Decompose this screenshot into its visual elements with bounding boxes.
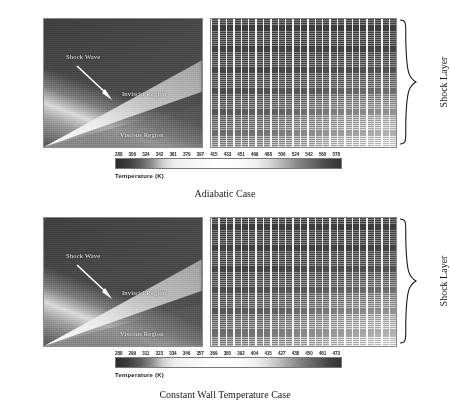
colorbar-tick: 369	[210, 351, 217, 356]
colorbar-tick: 397	[197, 152, 204, 157]
colorbar-tick: 451	[237, 152, 244, 157]
grid-vertical-lines	[211, 218, 396, 346]
panel-caption-adiabatic: Adiabatic Case	[0, 188, 450, 199]
colorbar-tick: 488	[265, 152, 272, 157]
colorbar-tick: 461	[319, 351, 326, 356]
colorbar-title: Temperature (K)	[115, 173, 340, 179]
colorbar-tick: 415	[264, 351, 271, 356]
inviscid-region-label: Inviscid Region	[122, 90, 166, 97]
colorbar-tick: 324	[142, 152, 149, 157]
colorbar-tick: 357	[196, 351, 203, 356]
colorbar-tick: 288	[115, 351, 122, 356]
colorbar-tick: 578	[333, 152, 340, 157]
colorbar-tick: 438	[292, 351, 299, 356]
shock-wave-label: Shock Wave	[66, 252, 100, 259]
temperature-colorbar-group: 2882993113233343463573693803924044154274…	[115, 351, 340, 378]
colorbar-tick: 415	[210, 152, 217, 157]
shock-wave-label: Shock Wave	[66, 53, 100, 60]
temperature-colorbar-group: 2883063243423613793974154334514694885065…	[115, 152, 340, 179]
inviscid-region-label: Inviscid Region	[122, 289, 166, 296]
shock-layer-brace-group: Shock Layer	[398, 217, 450, 345]
colorbar-tick: 323	[156, 351, 163, 356]
colorbar-tick: 288	[115, 152, 122, 157]
contour-noise-texture	[44, 218, 202, 346]
colorbar-tick: 379	[183, 152, 190, 157]
figure-panel-adiabatic: Shock Wave Inviscid Region Viscous Regio…	[0, 0, 450, 204]
colorbar-tick: 380	[224, 351, 231, 356]
colorbar-gradient	[115, 158, 342, 169]
temperature-contour-plot: Shock Wave Inviscid Region Viscous Regio…	[43, 18, 203, 148]
colorbar-tick: 311	[142, 351, 149, 356]
curly-brace-icon	[398, 217, 420, 345]
colorbar-tick-labels: 2882993113233343463573693803924044154274…	[115, 351, 340, 356]
colorbar-tick: 433	[224, 152, 231, 157]
colorbar-gradient	[115, 357, 342, 368]
grid-vertical-lines	[211, 19, 396, 147]
contour-noise-texture	[44, 19, 202, 147]
colorbar-tick: 299	[129, 351, 136, 356]
computational-grid-plot	[210, 217, 397, 347]
colorbar-tick: 473	[333, 351, 340, 356]
colorbar-tick: 560	[319, 152, 326, 157]
colorbar-tick: 392	[237, 351, 244, 356]
colorbar-tick-labels: 2883063243423613793974154334514694885065…	[115, 152, 340, 157]
temperature-contour-plot: Shock Wave Inviscid Region Viscous Regio…	[43, 217, 203, 347]
colorbar-tick: 361	[169, 152, 176, 157]
colorbar-tick: 306	[129, 152, 136, 157]
figure-panel-constant-wall-temperature: Shock Wave Inviscid Region Viscous Regio…	[0, 199, 450, 403]
viscous-region-label: Viscous Region	[120, 131, 164, 138]
contour-field	[44, 218, 202, 346]
curly-brace-icon	[398, 18, 420, 146]
colorbar-tick: 404	[251, 351, 258, 356]
computational-grid-plot	[210, 18, 397, 148]
colorbar-tick: 334	[169, 351, 176, 356]
colorbar-tick: 524	[292, 152, 299, 157]
colorbar-tick: 427	[278, 351, 285, 356]
colorbar-tick: 542	[305, 152, 312, 157]
panel-caption-constant-wall-temperature: Constant Wall Temperature Case	[0, 389, 450, 400]
shock-layer-brace-group: Shock Layer	[398, 18, 450, 146]
viscous-region-label: Viscous Region	[120, 330, 164, 337]
shock-layer-label: Shock Layer	[438, 256, 449, 307]
colorbar-title: Temperature (K)	[115, 372, 340, 378]
colorbar-tick: 342	[156, 152, 163, 157]
colorbar-tick: 469	[251, 152, 258, 157]
colorbar-tick: 346	[183, 351, 190, 356]
colorbar-tick: 506	[278, 152, 285, 157]
contour-field	[44, 19, 202, 147]
shock-layer-label: Shock Layer	[438, 57, 449, 108]
colorbar-tick: 450	[305, 351, 312, 356]
